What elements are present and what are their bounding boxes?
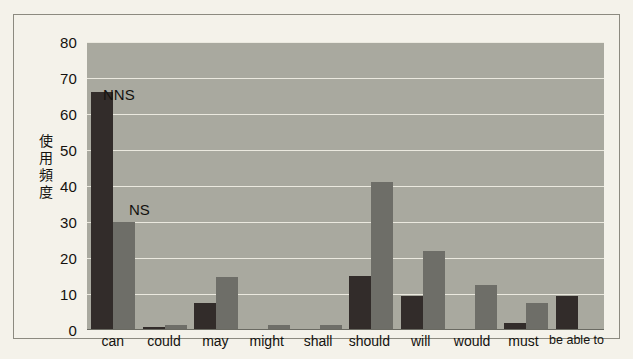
- figure-frame: 80706050403020100 使用頻度 NNS NS cancouldma…: [13, 14, 620, 339]
- y-axis-title-char: 度: [36, 184, 56, 201]
- bar-group: [501, 42, 553, 330]
- y-axis-title-char: 用: [36, 150, 56, 167]
- bar-ns-should: [371, 182, 393, 330]
- bar-chart-figure: 80706050403020100 使用頻度 NNS NS cancouldma…: [0, 0, 633, 359]
- bar-ns-can: [113, 222, 135, 330]
- bar-nns-will: [401, 296, 423, 330]
- y-tick-label: 70: [60, 70, 77, 87]
- bar-ns-may: [216, 277, 238, 330]
- bar-group: [139, 42, 191, 330]
- series-label-ns: NS: [129, 201, 150, 218]
- x-axis-line: [87, 329, 604, 330]
- bar-nns-may: [194, 303, 216, 330]
- bar-group: [397, 42, 449, 330]
- x-tick-label: could: [138, 333, 189, 349]
- x-tick-label: should: [344, 333, 395, 349]
- x-axis-tick-labels: cancouldmaymightshallshouldwillwouldmust…: [87, 333, 604, 349]
- y-axis-title-char: 使: [36, 133, 56, 150]
- bar-group: [190, 42, 242, 330]
- x-tick-label: shall: [292, 333, 343, 349]
- bar-groups: [87, 42, 604, 330]
- x-tick-label: must: [498, 333, 549, 349]
- plot-background: NNS NS: [87, 42, 604, 330]
- x-tick-label: would: [446, 333, 497, 349]
- bar-nns-be-able-to: [556, 296, 578, 330]
- bar-ns-will: [423, 251, 445, 330]
- y-tick-label: 0: [68, 322, 77, 339]
- bar-group: [242, 42, 294, 330]
- y-tick-label: 30: [60, 214, 77, 231]
- y-tick-label: 80: [60, 34, 77, 51]
- y-tick-label: 20: [60, 250, 77, 267]
- plot-area: NNS NS: [87, 42, 604, 330]
- bar-group: [346, 42, 398, 330]
- x-tick-label: might: [241, 333, 292, 349]
- x-tick-label: can: [87, 333, 138, 349]
- series-label-nns: NNS: [103, 86, 135, 103]
- y-tick-label: 10: [60, 286, 77, 303]
- x-tick-label: be able to: [549, 333, 604, 349]
- bar-group: [294, 42, 346, 330]
- y-tick-label: 50: [60, 142, 77, 159]
- bar-nns-can: [91, 92, 113, 330]
- bar-ns-would: [475, 285, 497, 330]
- y-axis-title: 使用頻度: [36, 133, 56, 201]
- x-tick-label: may: [190, 333, 241, 349]
- bar-group: [449, 42, 501, 330]
- y-tick-label: 60: [60, 106, 77, 123]
- y-axis-title-char: 頻: [36, 167, 56, 184]
- bar-group: [552, 42, 604, 330]
- y-tick-label: 40: [60, 178, 77, 195]
- bar-ns-must: [526, 303, 548, 330]
- bar-nns-should: [349, 276, 371, 330]
- x-tick-label: will: [395, 333, 446, 349]
